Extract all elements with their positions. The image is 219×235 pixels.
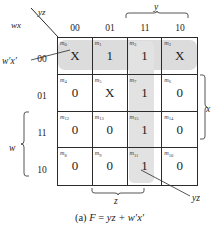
- minterm-label-m11: m11: [130, 148, 139, 158]
- minterm-label-m6: m6: [164, 75, 171, 85]
- brace-y: [126, 11, 188, 18]
- minterm-label-m4: m4: [60, 75, 67, 85]
- kmap-cell-m9[interactable]: m9 0: [93, 148, 128, 185]
- brace-label-x: x: [206, 104, 210, 114]
- brace-label-y: y: [154, 2, 158, 12]
- kmap-cell-value-m6: 0: [162, 85, 197, 101]
- kmap-cell-value-m2: X: [162, 48, 197, 64]
- column-tick-01: 01: [92, 22, 128, 34]
- caption-equals: =: [98, 212, 104, 223]
- kmap-cell-m1[interactable]: m1 1: [93, 38, 128, 75]
- figure-caption: (a) F = yz + w′x′: [0, 211, 219, 225]
- callout-label-wx-prime: w′x′: [2, 56, 17, 66]
- kmap-cell-value-m4: 0: [58, 85, 92, 101]
- minterm-label-m15: m15: [130, 112, 139, 122]
- row-tick-11: 11: [31, 127, 53, 139]
- kmap-grid: m0 X m1 1 m3 1 m2 X m4 0 m5 X m7 1 m6: [57, 37, 198, 186]
- kmap-cell-value-m5: X: [93, 85, 127, 101]
- minterm-label-m0: m0: [60, 38, 67, 48]
- column-tick-11: 11: [127, 22, 163, 34]
- brace-z: [92, 188, 144, 195]
- kmap-cell-m14[interactable]: m14 0: [162, 112, 197, 149]
- kmap-cell-m10[interactable]: m10 0: [162, 148, 197, 185]
- kmap-cell-value-m12: 0: [58, 122, 92, 138]
- caption-expression: yz + w′x′: [107, 212, 144, 223]
- kmap-cell-m6[interactable]: m6 0: [162, 75, 197, 112]
- kmap-cell-value-m7: 1: [128, 85, 162, 101]
- kmap-cell-value-m13: 0: [93, 122, 127, 138]
- corner-row-vars-label: wx: [11, 20, 21, 30]
- kmap-cell-value-m3: 1: [128, 48, 162, 64]
- column-tick-00: 00: [57, 22, 93, 34]
- kmap-cell-value-m14: 0: [162, 122, 197, 138]
- minterm-label-m9: m9: [95, 148, 102, 158]
- minterm-label-m7: m7: [130, 75, 137, 85]
- minterm-label-m13: m13: [95, 112, 104, 122]
- kmap-cell-m12[interactable]: m12 0: [58, 112, 93, 149]
- kmap-cell-m0[interactable]: m0 X: [58, 38, 93, 75]
- brace-w: [21, 112, 29, 176]
- minterm-label-m14: m14: [164, 112, 173, 122]
- brace-label-z: z: [114, 196, 118, 206]
- kmap-cell-value-m8: 0: [58, 158, 92, 174]
- minterm-label-m8: m8: [60, 148, 67, 158]
- minterm-label-m2: m2: [164, 38, 171, 48]
- kmap-cell-value-m10: 0: [162, 158, 197, 174]
- kmap-cell-m15[interactable]: m15 1: [128, 112, 163, 149]
- kmap-cell-m2[interactable]: m2 X: [162, 38, 197, 75]
- kmap-cell-value-m9: 0: [93, 158, 127, 174]
- brace-label-w: w: [9, 143, 15, 153]
- caption-prefix: (a): [75, 212, 87, 223]
- kmap-cell-m4[interactable]: m4 0: [58, 75, 93, 112]
- karnaugh-map-figure: yz wx 00 01 11 10 00 01 11 10 y x w z w′…: [0, 0, 219, 235]
- kmap-cell-m7[interactable]: m7 1: [128, 75, 163, 112]
- row-tick-00: 00: [31, 53, 53, 65]
- kmap-cell-m3[interactable]: m3 1: [128, 38, 163, 75]
- minterm-label-m5: m5: [95, 75, 102, 85]
- row-tick-10: 10: [31, 164, 53, 176]
- column-tick-10: 10: [162, 22, 198, 34]
- kmap-cell-m13[interactable]: m13 0: [93, 112, 128, 149]
- minterm-label-m3: m3: [130, 38, 137, 48]
- kmap-cell-m11[interactable]: m11 1: [128, 148, 163, 185]
- kmap-cell-m8[interactable]: m8 0: [58, 148, 93, 185]
- kmap-cell-value-m15: 1: [128, 122, 162, 138]
- caption-function: F: [89, 212, 95, 223]
- kmap-cell-value-m1: 1: [93, 48, 127, 64]
- row-tick-01: 01: [31, 90, 53, 102]
- minterm-label-m12: m12: [60, 112, 69, 122]
- kmap-cell-m5[interactable]: m5 X: [93, 75, 128, 112]
- callout-label-yz: yz: [192, 193, 200, 203]
- kmap-cell-value-m11: 1: [128, 158, 162, 174]
- minterm-label-m1: m1: [95, 38, 102, 48]
- corner-column-vars-label: yz: [38, 7, 46, 17]
- kmap-cell-value-m0: X: [58, 48, 92, 64]
- minterm-label-m10: m10: [164, 148, 173, 158]
